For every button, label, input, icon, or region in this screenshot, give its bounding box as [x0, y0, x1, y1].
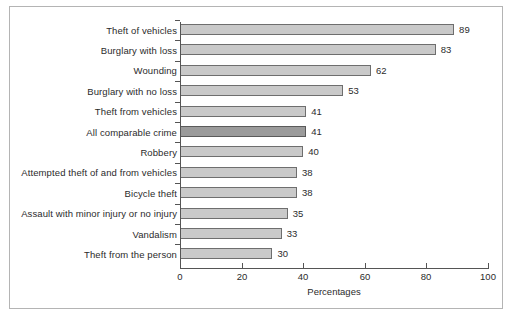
- bar-value-label: 53: [348, 85, 359, 96]
- bar-value-label: 40: [308, 146, 319, 157]
- bar-value-label: 62: [376, 65, 387, 76]
- y-axis-tick: [175, 244, 180, 245]
- category-label: Theft of vehicles: [106, 25, 177, 36]
- bar: [180, 248, 272, 259]
- category-label: Vandalism: [132, 229, 177, 240]
- x-axis-tick: [242, 263, 243, 269]
- bar-value-label: 41: [311, 126, 322, 137]
- bar-value-label: 89: [459, 24, 470, 35]
- bar: [180, 146, 303, 157]
- category-label: Bicycle theft: [124, 188, 177, 199]
- bar-row: 53: [180, 85, 488, 96]
- bar: [180, 167, 297, 178]
- category-label: Burglary with no loss: [87, 86, 177, 97]
- category-label: Theft from vehicles: [95, 106, 177, 117]
- bar-row: 38: [180, 187, 488, 198]
- y-axis-tick: [175, 20, 180, 21]
- x-axis-tick: [180, 263, 181, 269]
- bar-row: 30: [180, 248, 488, 259]
- y-axis-tick: [175, 183, 180, 184]
- bar-row: 83: [180, 44, 488, 55]
- bar-row: 62: [180, 65, 488, 76]
- bar: [180, 208, 288, 219]
- x-axis-tick-label: 40: [283, 271, 323, 282]
- y-axis-tick: [175, 61, 180, 62]
- x-axis-tick-label: 20: [222, 271, 262, 282]
- bar-value-label: 33: [287, 228, 298, 239]
- x-axis-tick: [488, 263, 489, 269]
- bar-row: 38: [180, 167, 488, 178]
- x-axis-tick-label: 100: [468, 271, 508, 282]
- x-axis-tick-label: 60: [345, 271, 385, 282]
- category-label: Robbery: [140, 147, 177, 158]
- category-label: Wounding: [134, 65, 177, 76]
- category-label: All comparable crime: [86, 127, 177, 138]
- category-label: Burglary with loss: [101, 45, 177, 56]
- bar-row: 89: [180, 24, 488, 35]
- category-label: Theft from the person: [84, 249, 177, 260]
- y-axis-line: [180, 22, 181, 268]
- bar-value-label: 83: [441, 44, 452, 55]
- y-axis-tick: [175, 142, 180, 143]
- y-axis-tick: [175, 204, 180, 205]
- x-axis-tick-label: 80: [406, 271, 446, 282]
- y-axis-tick: [175, 40, 180, 41]
- bar-row: 35: [180, 208, 488, 219]
- bar-value-label: 38: [302, 167, 313, 178]
- bar: [180, 228, 282, 239]
- y-axis-tick: [175, 81, 180, 82]
- bar-value-label: 35: [293, 208, 304, 219]
- bar-row: 41: [180, 106, 488, 117]
- x-axis-tick: [426, 263, 427, 269]
- category-label: Assault with minor injury or no injury: [21, 208, 177, 219]
- bar: [180, 187, 297, 198]
- y-axis-tick: [175, 224, 180, 225]
- bar-row: 40: [180, 146, 488, 157]
- x-axis-tick: [303, 263, 304, 269]
- bar: [180, 65, 371, 76]
- y-axis-tick: [175, 122, 180, 123]
- bar-row: 33: [180, 228, 488, 239]
- category-label: Attempted theft of and from vehicles: [21, 167, 177, 178]
- bar-row: 41: [180, 126, 488, 137]
- bar-highlighted: [180, 126, 306, 137]
- bar-chart: Theft of vehiclesBurglary with lossWound…: [0, 0, 512, 317]
- y-axis-tick: [175, 102, 180, 103]
- bar-value-label: 41: [311, 106, 322, 117]
- bar: [180, 106, 306, 117]
- bar: [180, 85, 343, 96]
- bar-value-label: 38: [302, 187, 313, 198]
- x-axis-tick: [365, 263, 366, 269]
- y-axis-tick: [175, 163, 180, 164]
- bar: [180, 44, 436, 55]
- x-axis-line: [180, 268, 488, 269]
- bar: [180, 24, 454, 35]
- x-axis-title: Percentages: [180, 286, 488, 297]
- bar-value-label: 30: [277, 248, 288, 259]
- x-axis-tick-label: 0: [160, 271, 200, 282]
